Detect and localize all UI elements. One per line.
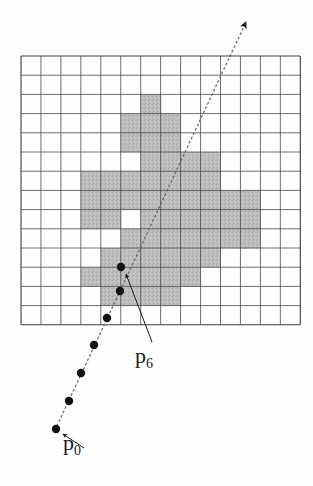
label-p0-subscript: 0 bbox=[74, 443, 81, 458]
shaded-cell bbox=[181, 171, 201, 191]
shaded-cell bbox=[141, 248, 161, 268]
shaded-cell bbox=[101, 210, 121, 230]
shaded-cell bbox=[161, 133, 181, 153]
shaded-cell bbox=[201, 190, 221, 210]
shaded-cell bbox=[141, 267, 161, 287]
sample-point bbox=[90, 341, 98, 349]
shaded-region bbox=[81, 94, 261, 306]
sample-point bbox=[103, 314, 111, 322]
raster-grid-figure bbox=[0, 0, 313, 486]
shaded-cell bbox=[181, 229, 201, 249]
shaded-cell bbox=[161, 229, 181, 249]
shaded-cell bbox=[121, 171, 141, 191]
pixel-grid bbox=[21, 56, 300, 325]
label-p6-base: p bbox=[135, 343, 146, 368]
sample-point bbox=[77, 369, 85, 377]
shaded-cell bbox=[81, 210, 101, 230]
shaded-cell bbox=[201, 229, 221, 249]
sample-point bbox=[116, 287, 124, 295]
shaded-cell bbox=[161, 248, 181, 268]
shaded-cell bbox=[181, 210, 201, 230]
shaded-cell bbox=[141, 171, 161, 191]
shaded-cell bbox=[141, 286, 161, 306]
label-p0-base: p bbox=[63, 430, 74, 455]
shaded-cell bbox=[161, 210, 181, 230]
label-p0: p0 bbox=[63, 432, 81, 454]
shaded-cell bbox=[201, 210, 221, 230]
shaded-cell bbox=[141, 133, 161, 153]
shaded-cell bbox=[141, 94, 161, 114]
shaded-cell bbox=[81, 171, 101, 191]
label-p6: p6 bbox=[135, 345, 153, 367]
shaded-cell bbox=[201, 248, 221, 268]
sample-point bbox=[65, 397, 73, 405]
label-p6-subscript: 6 bbox=[146, 356, 153, 371]
shaded-cell bbox=[141, 229, 161, 249]
shaded-cell bbox=[121, 133, 141, 153]
shaded-cell bbox=[201, 171, 221, 191]
shaded-cell bbox=[101, 171, 121, 191]
shaded-cell bbox=[161, 190, 181, 210]
shaded-cell bbox=[201, 152, 221, 172]
shaded-cell bbox=[121, 190, 141, 210]
shaded-cell bbox=[81, 267, 101, 287]
shaded-cell bbox=[161, 171, 181, 191]
sample-point bbox=[117, 263, 125, 271]
shaded-cell bbox=[221, 210, 241, 230]
shaded-cell bbox=[240, 190, 260, 210]
shaded-cell bbox=[141, 114, 161, 134]
sample-point bbox=[52, 425, 60, 433]
shaded-cell bbox=[81, 190, 101, 210]
shaded-cell bbox=[101, 190, 121, 210]
shaded-cell bbox=[221, 229, 241, 249]
shaded-cell bbox=[121, 229, 141, 249]
shaded-cell bbox=[141, 190, 161, 210]
shaded-cell bbox=[121, 267, 141, 287]
shaded-cell bbox=[161, 286, 181, 306]
shaded-cell bbox=[240, 210, 260, 230]
shaded-cell bbox=[101, 267, 121, 287]
shaded-cell bbox=[181, 267, 201, 287]
shaded-cell bbox=[181, 248, 201, 268]
figure-root: p6 p0 bbox=[0, 0, 313, 486]
shaded-cell bbox=[161, 267, 181, 287]
shaded-cell bbox=[121, 114, 141, 134]
shaded-cell bbox=[141, 152, 161, 172]
shaded-cell bbox=[240, 229, 260, 249]
shaded-cell bbox=[161, 114, 181, 134]
shaded-cell bbox=[181, 190, 201, 210]
shaded-cell bbox=[221, 190, 241, 210]
